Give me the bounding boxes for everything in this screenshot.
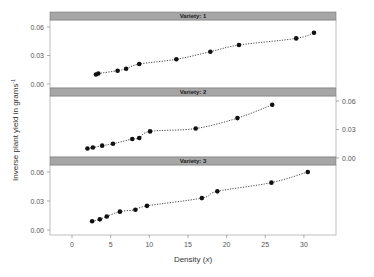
data-point: [124, 67, 129, 72]
y-tick-label: 0.06: [342, 98, 356, 105]
strip-label: Variety: 2: [180, 89, 207, 95]
data-point: [200, 196, 205, 201]
data-point: [111, 141, 116, 146]
x-tick-label: 0: [70, 241, 74, 248]
data-point: [137, 62, 142, 67]
data-point: [269, 180, 274, 185]
strip-label: Variety: 3: [180, 158, 207, 164]
data-point: [237, 43, 242, 48]
x-axis-title: Density (x): [174, 255, 213, 264]
x-tick-label: 25: [261, 241, 269, 248]
data-point: [208, 49, 213, 54]
x-tick-label: 30: [300, 241, 308, 248]
data-point: [148, 129, 153, 134]
panel-frame: [50, 20, 336, 88]
data-point: [215, 189, 220, 194]
data-point: [312, 30, 317, 35]
panel-frame: [50, 165, 336, 235]
y-tick-label: 0.03: [342, 126, 356, 133]
x-tick-label: 15: [184, 241, 192, 248]
data-point: [137, 136, 142, 141]
data-point: [270, 103, 275, 108]
data-point: [85, 146, 90, 151]
data-point: [100, 143, 105, 148]
data-point: [130, 137, 135, 142]
data-point: [174, 57, 179, 62]
strip-label: Variety: 1: [180, 13, 207, 19]
data-point: [235, 116, 240, 121]
y-tick-label: 0.03: [30, 198, 44, 205]
data-point: [118, 209, 123, 214]
faceted-scatter-chart: Variety: 10.000.030.06Variety: 20.000.03…: [0, 0, 374, 277]
data-point: [96, 71, 101, 76]
data-point: [104, 214, 109, 219]
data-point: [115, 68, 120, 73]
data-point: [90, 219, 95, 224]
panels: Variety: 10.000.030.06Variety: 20.000.03…: [30, 12, 355, 235]
data-point: [133, 207, 138, 212]
data-point: [98, 217, 103, 222]
y-tick-label: 0.03: [30, 52, 44, 59]
data-point: [91, 145, 96, 150]
y-tick-label: 0.06: [30, 24, 44, 31]
data-point: [305, 170, 310, 175]
x-axis: 051015202530: [70, 235, 308, 248]
x-tick-label: 20: [223, 241, 231, 248]
data-point: [145, 204, 150, 209]
y-axis-title: Inverse plant yield in grams-1: [10, 79, 20, 181]
panel-variety-3: Variety: 30.000.030.06: [30, 157, 336, 235]
y-tick-label: 0.00: [30, 81, 44, 88]
y-tick-label: 0.06: [30, 169, 44, 176]
data-point: [294, 36, 299, 41]
panel-variety-2: Variety: 20.000.030.06: [50, 88, 356, 162]
x-tick-label: 10: [145, 241, 153, 248]
y-tick-label: 0.00: [30, 227, 44, 234]
data-point: [193, 126, 198, 131]
panel-variety-1: Variety: 10.000.030.06: [30, 12, 336, 88]
y-tick-label: 0.00: [342, 155, 356, 162]
x-tick-label: 5: [109, 241, 113, 248]
